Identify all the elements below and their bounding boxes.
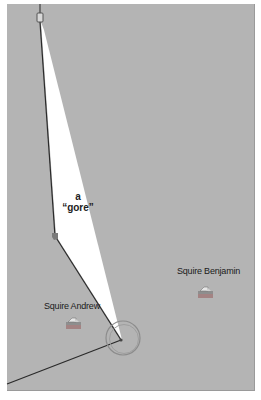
gore-region	[41, 22, 122, 340]
gore-annotation-line2: “gore”	[58, 202, 98, 213]
boundary-marker-icon[interactable]	[37, 13, 43, 22]
house-parcel-icon[interactable]	[66, 318, 81, 329]
gore-annotation-line1: a	[58, 191, 98, 202]
squire-andrew-label: Squire Andrew	[44, 301, 100, 311]
gore-annotation: a “gore”	[58, 191, 98, 213]
survey-circle-icon[interactable]	[106, 321, 140, 355]
squire-benjamin-label: Squire Benjamin	[177, 266, 240, 276]
map-overlay	[0, 0, 261, 400]
boundary-line-bottom	[7, 340, 121, 384]
house-parcel-icon[interactable]	[198, 287, 213, 298]
vertex-point-icon[interactable]	[52, 233, 58, 240]
